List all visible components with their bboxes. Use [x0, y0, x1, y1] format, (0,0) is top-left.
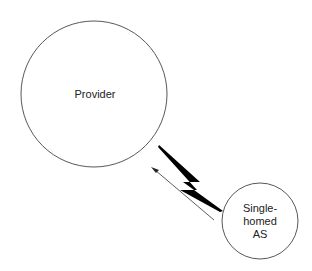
provider-label: Provider — [64, 88, 126, 101]
lightning-bolt-icon — [158, 145, 223, 212]
label-line-3: AS — [230, 228, 290, 241]
label-line-2: homed — [230, 215, 290, 228]
arrow-line — [155, 170, 214, 220]
single-homed-as-label: Single- homed AS — [230, 202, 290, 241]
provider-text: Provider — [75, 88, 116, 100]
label-line-1: Single- — [230, 202, 290, 215]
